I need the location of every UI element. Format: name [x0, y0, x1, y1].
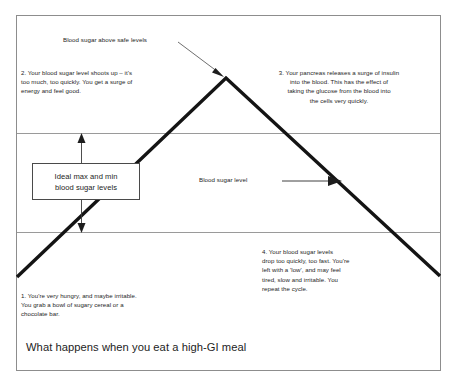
annotation-step-3: 3. Your pancreas releases a surge of ins…: [243, 68, 435, 105]
ideal-range-callout-box: Ideal max and min blood sugar levels: [32, 163, 140, 200]
series-label: Blood sugar level: [199, 175, 279, 184]
diagram-root: Blood sugar above safe levels 2. Your bl…: [0, 0, 458, 385]
annotation-step-1: 1. You're very hungry, and maybe irritab…: [21, 291, 211, 319]
annotation-step-4: 4. Your blood sugar levels drop too quic…: [262, 247, 402, 293]
peak-callout-label: Blood sugar above safe levels: [63, 35, 243, 44]
chart-title: What happens when you eat a high-GI meal: [26, 340, 356, 355]
annotation-step-2: 2. Your blood sugar level shoots up – it…: [21, 68, 196, 96]
ideal-range-callout-label: Ideal max and min blood sugar levels: [36, 171, 136, 193]
